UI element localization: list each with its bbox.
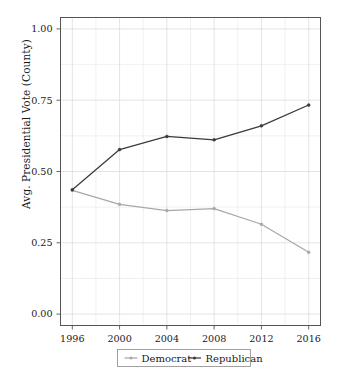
chart-legend: DemocratRepublican: [118, 350, 264, 367]
legend-label-republican: Republican: [206, 353, 264, 364]
data-point-republican: [307, 104, 310, 107]
tick-labels: 0.000.250.500.751.0019962000200420082012…: [31, 23, 321, 343]
data-point-democrat: [213, 207, 216, 210]
x-tick-label: 2012: [249, 333, 273, 344]
x-tick-label: 2016: [296, 333, 320, 344]
x-tick-label: 2008: [202, 333, 226, 344]
data-point-republican: [118, 148, 121, 151]
data-point-republican: [71, 188, 74, 191]
y-tick-label: 0.75: [31, 95, 52, 106]
y-tick-label: 1.00: [31, 23, 52, 34]
y-tick-label: 0.50: [31, 166, 52, 177]
y-tick-label: 0.25: [31, 237, 52, 248]
data-point-republican: [213, 138, 216, 141]
data-point-democrat: [118, 203, 121, 206]
legend-marker-democrat: [130, 357, 133, 360]
tick-marks: [57, 29, 309, 330]
x-tick-label: 1996: [60, 333, 84, 344]
data-point-republican: [165, 135, 168, 138]
chart-figure: Avg. Presidential Vote (County) 0.000.25…: [0, 0, 337, 381]
data-point-democrat: [260, 223, 263, 226]
data-point-republican: [260, 124, 263, 127]
data-point-democrat: [165, 209, 168, 212]
data-point-democrat: [307, 251, 310, 254]
x-tick-label: 2004: [155, 333, 179, 344]
y-tick-label: 0.00: [31, 308, 52, 319]
legend-marker-republican: [193, 357, 196, 360]
legend-label-democrat: Democrat: [142, 353, 192, 364]
x-tick-label: 2000: [107, 333, 131, 344]
line-chart-canvas: 0.000.250.500.751.0019962000200420082012…: [0, 0, 337, 381]
